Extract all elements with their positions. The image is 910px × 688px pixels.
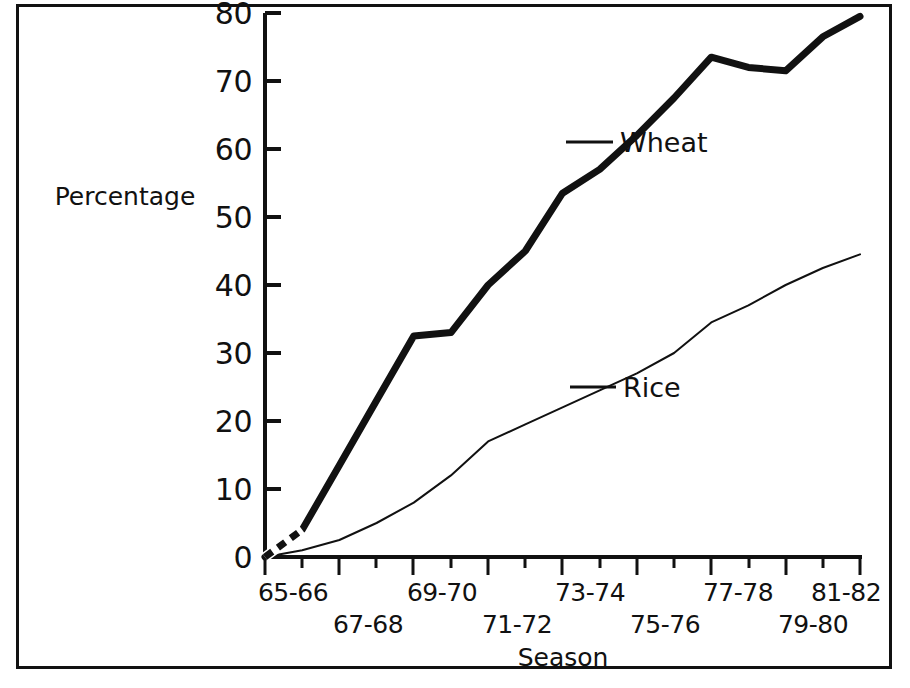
y-tick-labels: 80 70 60 50 40 30 20 10 0: [215, 0, 252, 575]
x-tick-81-82: 81-82: [811, 578, 881, 607]
x-tick-65-66: 65-66: [258, 578, 328, 607]
rice-series-label: Rice: [623, 372, 681, 403]
x-tick-71-72: 71-72: [482, 610, 552, 639]
x-tick-67-68: 67-68: [333, 610, 403, 639]
x-tick-69-70: 69-70: [407, 578, 477, 607]
x-tick-79-80: 79-80: [778, 610, 848, 639]
x-tick-labels-upper: 65-66 69-70 73-74 77-78 81-82: [258, 578, 881, 607]
series-wheat-polyline: [265, 16, 860, 557]
y-tick-0: 0: [233, 540, 252, 575]
x-tick-77-78: 77-78: [703, 578, 773, 607]
y-tick-10: 10: [215, 472, 252, 507]
line-chart: 80 70 60 50 40 30 20 10 0: [0, 0, 910, 688]
series-rice-line: [265, 254, 860, 557]
series-rice-polyline: [265, 254, 860, 557]
x-axis-title: Season: [518, 643, 609, 672]
y-tick-50: 50: [215, 200, 252, 235]
x-tick-labels-lower: 67-68 71-72 75-76 79-80: [333, 610, 848, 639]
y-tick-70: 70: [215, 64, 252, 99]
series-wheat-line: [265, 16, 860, 557]
chart-figure: 80 70 60 50 40 30 20 10 0: [0, 0, 910, 688]
y-tick-80: 80: [215, 0, 252, 31]
y-tick-40: 40: [215, 268, 252, 303]
wheat-series-label: Wheat: [620, 127, 708, 158]
x-axis-ticks: [265, 557, 860, 575]
y-tick-60: 60: [215, 132, 252, 167]
y-tick-20: 20: [215, 404, 252, 439]
y-tick-30: 30: [215, 336, 252, 371]
y-axis-title: Percentage: [55, 182, 196, 211]
x-tick-73-74: 73-74: [555, 578, 625, 607]
y-axis-ticks: [265, 13, 281, 557]
x-tick-75-76: 75-76: [630, 610, 700, 639]
